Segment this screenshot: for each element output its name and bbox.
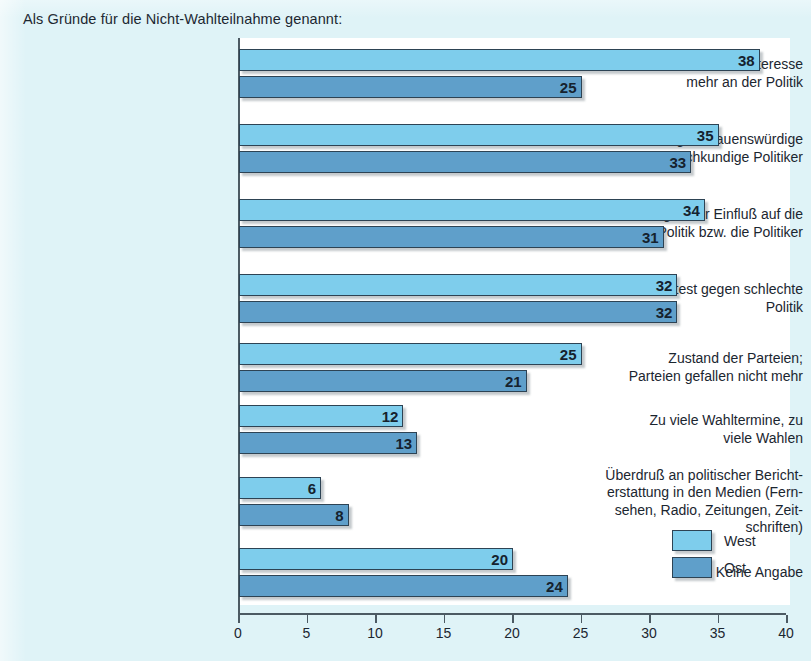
- bar-west-5: 12: [239, 405, 403, 427]
- category-label-5: Zu viele Wahltermine, zuviele Wahlen: [571, 412, 803, 447]
- category-label-4: Zustand der Parteien;Parteien gefallen n…: [571, 350, 803, 385]
- x-tick-30: [649, 615, 651, 623]
- category-label-line: viele Wahlen: [571, 430, 803, 448]
- bar-value-ost-6: 8: [335, 508, 347, 523]
- bar-ost-3: 32: [239, 301, 677, 323]
- chart-legend: West Ost: [672, 528, 756, 582]
- x-tick-label-0: 0: [234, 625, 242, 641]
- bar-ost-7: 24: [239, 575, 568, 597]
- x-tick-label-25: 25: [573, 625, 589, 641]
- bar-value-ost-0: 25: [560, 80, 581, 95]
- legend-swatch-ost-icon: [672, 557, 712, 578]
- bar-value-ost-4: 21: [505, 374, 526, 389]
- bar-ost-6: 8: [239, 504, 349, 526]
- x-tick-label-20: 20: [504, 625, 520, 641]
- bar-value-ost-7: 24: [546, 579, 567, 594]
- category-label-6: Überdruß an politischer Bericht-erstattu…: [571, 467, 803, 537]
- x-tick-0: [238, 615, 240, 623]
- legend-label-west: West: [724, 533, 756, 549]
- category-label-line: Parteien gefallen nicht mehr: [571, 368, 803, 386]
- legend-label-ost: Ost: [724, 560, 746, 576]
- legend-item-ost: Ost: [672, 555, 756, 580]
- x-tick-10: [375, 615, 377, 623]
- category-label-line: Zustand der Parteien;: [571, 350, 803, 368]
- x-tick-label-10: 10: [367, 625, 383, 641]
- x-tick-25: [581, 615, 583, 623]
- bar-value-west-3: 32: [656, 278, 677, 293]
- category-label-line: sehen, Radio, Zeitungen, Zeit-: [571, 502, 803, 520]
- x-tick-label-15: 15: [436, 625, 452, 641]
- bar-value-west-1: 35: [697, 128, 718, 143]
- bar-ost-5: 13: [239, 432, 417, 454]
- chart-figure: Als Gründe für die Nicht-Wahlteilnahme g…: [0, 0, 811, 661]
- category-label-line: Überdruß an politischer Bericht-: [571, 467, 803, 485]
- bar-west-6: 6: [239, 477, 321, 499]
- x-tick-35: [718, 615, 720, 623]
- bar-value-west-5: 12: [382, 409, 403, 424]
- x-tick-label-40: 40: [778, 625, 794, 641]
- bar-west-4: 25: [239, 343, 582, 365]
- bar-ost-0: 25: [239, 76, 582, 98]
- x-tick-20: [512, 615, 514, 623]
- category-label-line: Zu viele Wahltermine, zu: [571, 412, 803, 430]
- x-tick-label-5: 5: [303, 625, 311, 641]
- x-tick-label-35: 35: [710, 625, 726, 641]
- bar-value-west-7: 20: [491, 552, 512, 567]
- bar-value-west-4: 25: [560, 347, 581, 362]
- legend-swatch-west-icon: [672, 530, 712, 551]
- category-label-line: erstattung in den Medien (Fern-: [571, 484, 803, 502]
- category-label-line: mehr an der Politik: [571, 74, 803, 92]
- bar-value-ost-5: 13: [395, 436, 416, 451]
- bar-west-2: 34: [239, 199, 705, 221]
- bar-west-3: 32: [239, 274, 677, 296]
- bar-value-ost-2: 31: [642, 230, 663, 245]
- bar-value-ost-1: 33: [669, 155, 690, 170]
- x-tick-15: [444, 615, 446, 623]
- x-tick-40: [786, 615, 788, 623]
- bar-value-west-2: 34: [683, 203, 704, 218]
- bar-ost-4: 21: [239, 370, 527, 392]
- bar-value-west-6: 6: [308, 481, 320, 496]
- bar-ost-1: 33: [239, 151, 691, 173]
- bar-ost-2: 31: [239, 226, 664, 248]
- bar-west-7: 20: [239, 548, 513, 570]
- x-tick-label-30: 30: [641, 625, 657, 641]
- bar-west-1: 35: [239, 124, 719, 146]
- bar-west-0: 38: [239, 49, 760, 71]
- legend-item-west: West: [672, 528, 756, 553]
- bar-value-ost-3: 32: [656, 305, 677, 320]
- bar-value-west-0: 38: [738, 53, 759, 68]
- chart-title: Als Gründe für die Nicht-Wahlteilnahme g…: [23, 11, 342, 27]
- x-tick-5: [307, 615, 309, 623]
